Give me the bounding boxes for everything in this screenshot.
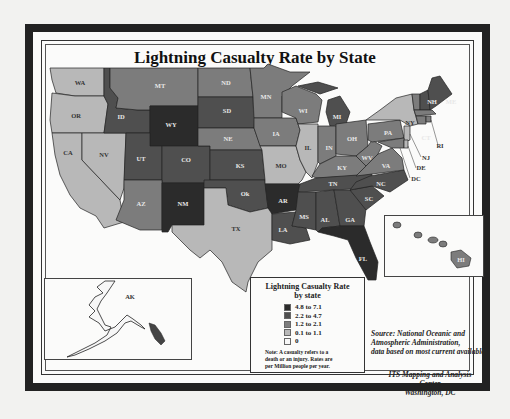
label-ME: ME — [446, 98, 456, 105]
label-AR: AR — [278, 197, 288, 204]
label-LA: LA — [278, 226, 287, 233]
label-WV: WV — [361, 154, 373, 161]
label-MN: MN — [261, 93, 272, 100]
label-GA: GA — [345, 216, 355, 223]
label-KS: KS — [236, 162, 245, 169]
label-NJ: NJ — [422, 154, 431, 161]
legend-item-1.2-2.1: 1.2 to 2.1 — [284, 320, 364, 329]
state-RI[interactable] — [426, 116, 431, 122]
state-MA[interactable] — [414, 110, 436, 116]
label-KY: KY — [337, 164, 347, 171]
state-CT[interactable] — [416, 116, 426, 124]
state-NJ[interactable] — [404, 126, 410, 142]
label-WY: WY — [165, 121, 177, 128]
legend-item-2.2-4.7: 2.2 to 4.7 — [284, 312, 364, 321]
label-TX: TX — [231, 225, 240, 232]
credit-note: ITS Mapping and Analysis Center Washingt… — [380, 370, 480, 397]
state-FL[interactable] — [318, 226, 378, 280]
source-note: Source: National Oceanic and Atmospheric… — [371, 329, 485, 356]
label-OR: OR — [71, 112, 81, 119]
label-PA: PA — [384, 129, 392, 136]
legend-swatch — [284, 338, 291, 345]
label-MS: MS — [299, 213, 309, 220]
label-IN: IN — [325, 144, 333, 151]
label-NH: NH — [427, 98, 437, 105]
hawaii-inset: HI — [384, 215, 484, 277]
label-NM: NM — [178, 200, 189, 207]
label-WA: WA — [75, 79, 86, 86]
legend-title: Lightning Casualty Rate by state — [251, 282, 364, 300]
hawaii-outline: HI — [385, 216, 485, 278]
label-NC: NC — [376, 180, 386, 187]
label-NY: NY — [405, 119, 415, 126]
label-SC: SC — [365, 195, 374, 202]
label-AK: AK — [125, 293, 135, 300]
state-DE[interactable] — [404, 140, 408, 148]
label-SD: SD — [223, 107, 232, 114]
legend-swatch — [284, 321, 291, 328]
label-IA: IA — [272, 130, 280, 137]
label-OK: Ok — [241, 190, 250, 197]
legend-swatch — [284, 304, 291, 311]
label-OH: OH — [347, 135, 357, 142]
label-NV: NV — [99, 151, 109, 158]
legend-swatch — [284, 329, 291, 336]
label-IL: IL — [305, 144, 313, 151]
label-AZ: AZ — [136, 200, 145, 207]
state-MT[interactable] — [110, 68, 198, 110]
label-FL: FL — [359, 255, 368, 262]
legend-items: 4.8 to 7.1 2.2 to 4.7 1.2 to 2.1 0.1 to … — [284, 303, 364, 346]
label-NE: NE — [223, 135, 232, 142]
label-CO: CO — [181, 156, 191, 163]
alaska-outline: AK — [45, 279, 193, 361]
state-CO[interactable] — [162, 146, 210, 183]
legend-note: Note: A casualty refers to a death or an… — [265, 349, 364, 370]
label-MI: MI — [333, 113, 342, 120]
label-CA: CA — [63, 149, 73, 156]
label-DE: DE — [416, 164, 425, 171]
legend: Lightning Casualty Rate by state 4.8 to … — [250, 277, 365, 373]
label-MO: MO — [275, 162, 286, 169]
legend-swatch — [284, 312, 291, 319]
legend-item-0: 0 — [284, 337, 364, 346]
label-ND: ND — [221, 79, 231, 86]
label-CT: CT — [421, 134, 431, 141]
label-HI: HI — [457, 256, 465, 263]
legend-item-0.1-1.1: 0.1 to 1.1 — [284, 329, 364, 338]
alaska-inset: AK — [44, 278, 192, 360]
label-ID: ID — [117, 113, 125, 120]
label-VA: VA — [382, 162, 391, 169]
label-DC: DC — [411, 175, 421, 182]
label-UT: UT — [136, 155, 146, 162]
label-MT: MT — [155, 82, 166, 89]
legend-item-4.8-7.1: 4.8 to 7.1 — [284, 303, 364, 312]
label-TN: TN — [328, 180, 337, 187]
label-AL: AL — [320, 216, 330, 223]
label-WI: WI — [298, 107, 308, 114]
